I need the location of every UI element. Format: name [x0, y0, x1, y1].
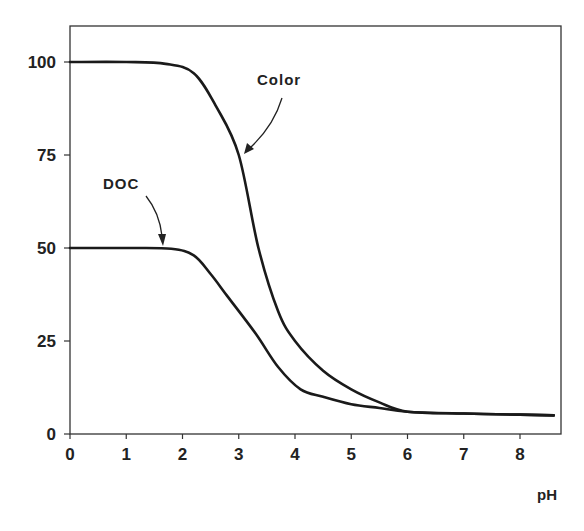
x-axis: 012345678: [65, 434, 524, 464]
y-tick-label: 25: [37, 332, 56, 351]
x-tick-label: 8: [515, 445, 524, 464]
annotations: Color DOC: [103, 71, 301, 246]
x-tick-label: 5: [347, 445, 356, 464]
y-tick-label: 75: [37, 146, 56, 165]
plot-frame: [70, 26, 561, 434]
series-color-line: [70, 62, 554, 416]
color-annotation-arrow: [250, 98, 282, 148]
doc-arrowhead-icon: [158, 234, 166, 246]
plot-border: [70, 26, 561, 434]
x-tick-label: 3: [234, 445, 243, 464]
doc-annotation-arrow: [146, 196, 162, 236]
y-tick-label: 100: [28, 53, 56, 72]
color-arrowhead-icon: [244, 143, 254, 154]
doc-annotation-label: DOC: [103, 175, 139, 192]
series-doc-line: [70, 248, 554, 415]
x-tick-label: 6: [403, 445, 412, 464]
y-axis: 0255075100: [28, 53, 70, 444]
x-axis-title: pH: [537, 486, 557, 503]
x-tick-label: 1: [122, 445, 131, 464]
series-lines: [70, 62, 554, 416]
y-tick-label: 50: [37, 239, 56, 258]
x-tick-label: 0: [65, 445, 74, 464]
x-tick-label: 7: [459, 445, 468, 464]
color-annotation-label: Color: [257, 71, 301, 88]
y-tick-label: 0: [47, 425, 56, 444]
chart-canvas: 012345678 0255075100 Color DOC pH: [0, 0, 584, 531]
x-tick-label: 2: [178, 445, 187, 464]
x-tick-label: 4: [290, 445, 300, 464]
